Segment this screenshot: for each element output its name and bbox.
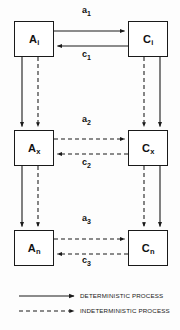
node-a-n-label: An bbox=[28, 243, 41, 254]
node-c-x-label: Cx bbox=[142, 143, 154, 154]
edge-label-c2: c2 bbox=[82, 158, 91, 167]
edge-label-a2: a2 bbox=[82, 115, 91, 124]
edge-label-c1: c1 bbox=[82, 50, 91, 59]
node-a-x-label: Ax bbox=[28, 143, 40, 154]
node-a-n[interactable]: An bbox=[14, 230, 54, 266]
node-c-i-label: Ci bbox=[143, 34, 153, 45]
edge-label-c3: c3 bbox=[82, 256, 91, 265]
node-a-i-label: Ai bbox=[29, 34, 39, 45]
legend-label-deterministic: DETERMINISTIC PROCESS bbox=[80, 293, 163, 299]
edge-label-a1: a1 bbox=[82, 6, 91, 15]
node-a-i[interactable]: Ai bbox=[14, 21, 54, 57]
node-c-i[interactable]: Ci bbox=[128, 21, 168, 57]
node-c-n[interactable]: Cn bbox=[128, 230, 168, 266]
node-c-x[interactable]: Cx bbox=[128, 130, 168, 166]
node-c-n-label: Cn bbox=[142, 243, 155, 254]
edge-label-a3: a3 bbox=[82, 214, 91, 223]
process-diagram: Ai Ci Ax Cx An Cn a1 c1 a2 c2 a3 c3 DETE… bbox=[0, 0, 180, 330]
legend-label-indeterministic: INDETERMINISTIC PROCESS bbox=[80, 308, 170, 314]
node-a-x[interactable]: Ax bbox=[14, 130, 54, 166]
